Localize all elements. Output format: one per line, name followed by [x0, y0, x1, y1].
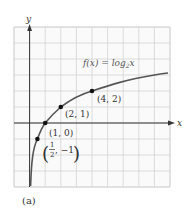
y-axis-label: y: [25, 14, 32, 24]
point-2-1: [59, 105, 64, 110]
svg-text:): ): [73, 143, 80, 164]
svg-text:2: 2: [50, 151, 54, 159]
figure-caption: (a): [22, 195, 36, 206]
point-label-1-0: (1, 0): [49, 128, 73, 138]
x-axis-arrow-icon: [168, 121, 175, 126]
point-4-2: [90, 89, 95, 94]
grid: [14, 27, 170, 187]
log-graph: y x f(x) = log2x (4, 2) (2, 1) (1, 0) ( …: [0, 0, 185, 214]
x-axis-label: x: [177, 118, 182, 128]
svg-text:1: 1: [50, 141, 54, 149]
svg-text:, −1: , −1: [55, 145, 74, 155]
point-label-2-1: (2, 1): [65, 109, 89, 119]
svg-text:(: (: [42, 143, 49, 164]
point-label-4-2: (4, 2): [97, 94, 121, 104]
point-1-0: [43, 121, 48, 126]
point-half-neg1: [35, 137, 40, 142]
